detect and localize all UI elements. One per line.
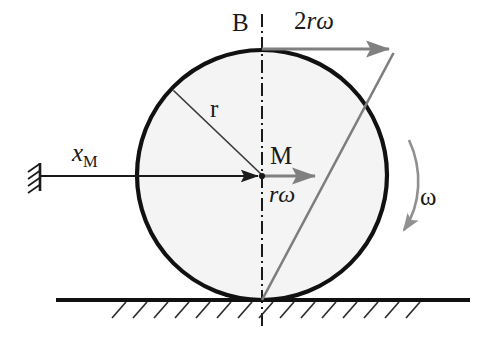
label-point-m: M [270,143,292,168]
label-romega-radius: r [269,181,278,207]
rolling-disc-diagram: B 2rω xM M rω r ω [0,0,494,347]
label-romega-omega: ω [278,181,295,207]
label-2romega-omega: ω [316,7,334,34]
center-point-marker [259,173,265,179]
ground-hatching [112,302,420,318]
label-displacement-xm: xM [72,140,98,171]
angular-velocity-arc [404,140,418,230]
label-radius: r [210,96,218,121]
wall-support-icon [28,163,40,193]
label-2romega-coefficient: 2 [294,7,307,34]
label-xm-subscript: M [83,152,98,171]
label-angular-velocity: ω [420,184,436,209]
diagram-canvas [0,0,494,347]
label-point-b: B [232,10,249,35]
label-velocity-romega: rω [269,182,295,206]
label-velocity-2romega: 2rω [294,8,334,33]
label-xm-symbol: x [72,139,83,166]
label-2romega-radius: r [307,7,317,34]
